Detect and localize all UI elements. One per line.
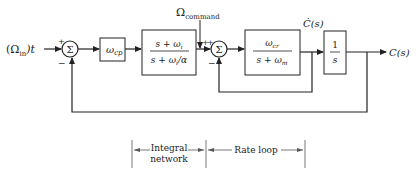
svg-text:Integral: Integral [151, 143, 188, 153]
input-label: (Ωin)t [6, 43, 35, 58]
gain-block: ωcp [100, 38, 125, 61]
svg-text:(Ωin)t: (Ωin)t [6, 43, 35, 58]
integrator-block: 1 s [324, 31, 346, 74]
svg-text:Ωcommand: Ωcommand [176, 6, 220, 21]
svg-text:1: 1 [332, 40, 338, 50]
svg-text:network: network [150, 154, 188, 164]
svg-text:Rate loop: Rate loop [234, 145, 278, 155]
bracket-rate-loop: Rate loop [208, 140, 305, 168]
svg-text:−: − [58, 58, 66, 68]
svg-text:Σ: Σ [215, 44, 222, 55]
svg-text:Σ: Σ [66, 44, 73, 55]
control-block-diagram: (Ωin)t Σ + − ωcp s + ωi s + ωi/α Ωcomman… [0, 0, 418, 170]
svg-text:s: s [333, 55, 338, 65]
svg-text:s + ωi/α: s + ωi/α [151, 55, 187, 66]
integral-network-block: s + ωi s + ωi/α [142, 30, 196, 75]
rate-loop-block: ωcr s + ωm [245, 30, 300, 75]
output-label: C(s) [389, 47, 410, 58]
svg-text:−: − [208, 58, 216, 68]
rate-signal-label: Ċ(s) [303, 18, 324, 29]
svg-text:s + ωi: s + ωi [155, 39, 182, 50]
svg-text:+: + [58, 37, 65, 46]
summing-junction-1: Σ + − [58, 37, 78, 68]
bracket-integral-network: Integral network [132, 140, 204, 168]
